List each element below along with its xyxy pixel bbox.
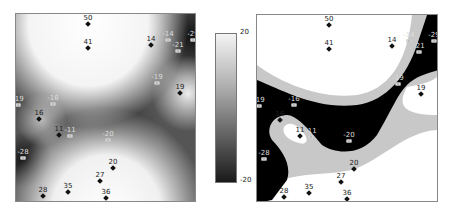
point-value-label: -29 [428,32,438,39]
point-value-label: 27 [96,172,105,179]
negative-point-marker [396,83,401,86]
point-value-label: 50 [325,16,334,23]
point-value-label: -21 [172,42,183,49]
negative-point-marker [106,139,111,142]
point-value-label: 14 [388,37,397,44]
point-value-label: 35 [64,183,73,190]
point-value-label: 27 [337,173,346,180]
negative-point-marker [176,50,181,53]
negative-point-marker [262,158,267,161]
negative-point-marker [155,82,160,85]
point-value-label: -28 [258,150,269,157]
continuous-surface-map: 504114-14-29-21-1919-19-161611-11-20-282… [15,13,196,202]
negative-point-marker [347,140,352,143]
point-value-label: -11 [64,127,75,134]
point-value-label: -14 [162,31,173,38]
classified-surface-map: 504114-14-29-21-1919-19-161611-11-20-282… [256,14,438,202]
point-value-label: 41 [325,40,334,47]
point-value-label: 19 [176,84,185,91]
colorbar-max-label: 20 [240,28,249,36]
point-value-label: 11 [296,127,305,134]
negative-point-marker [309,136,314,139]
class-regions [257,15,438,202]
negative-point-marker [68,135,73,138]
negative-point-marker [432,40,437,43]
point-value-label: 20 [109,159,118,166]
surface-gradient [16,14,196,202]
negative-point-marker [51,103,56,106]
point-value-label: -20 [343,132,354,139]
point-value-label: 19 [417,85,426,92]
point-value-label: 36 [343,190,352,197]
colorbar-min-label: -20 [240,176,251,184]
point-value-label: 35 [305,184,314,191]
point-value-label: -16 [288,96,299,103]
point-value-label: -19 [15,96,24,103]
point-value-label: -29 [187,31,196,38]
point-value-label: 28 [280,188,289,195]
negative-point-marker [292,104,297,107]
negative-point-marker [257,105,262,108]
point-value-label: -21 [413,43,424,50]
negative-point-marker [417,51,422,54]
point-value-label: 14 [147,36,156,43]
point-value-label: 50 [84,15,93,22]
negative-point-marker [191,39,196,42]
point-value-label: -28 [17,149,28,156]
point-value-label: 16 [276,111,285,118]
point-value-label: 28 [39,187,48,194]
point-value-label: 16 [35,110,44,117]
point-value-label: -19 [392,75,403,82]
negative-point-marker [166,39,171,42]
point-value-label: -20 [102,131,113,138]
point-value-label: 36 [102,189,111,196]
point-value-label: 11 [55,126,64,133]
point-value-label: -19 [151,74,162,81]
negative-point-marker [407,40,412,43]
negative-point-marker [21,157,26,160]
point-value-label: -14 [403,32,414,39]
point-value-label: 41 [84,39,93,46]
point-value-label: 20 [350,160,359,167]
negative-point-marker [16,104,21,107]
colorbar [215,33,237,183]
point-value-label: -11 [305,128,316,135]
point-value-label: -16 [47,95,58,102]
point-value-label: -19 [256,97,265,104]
